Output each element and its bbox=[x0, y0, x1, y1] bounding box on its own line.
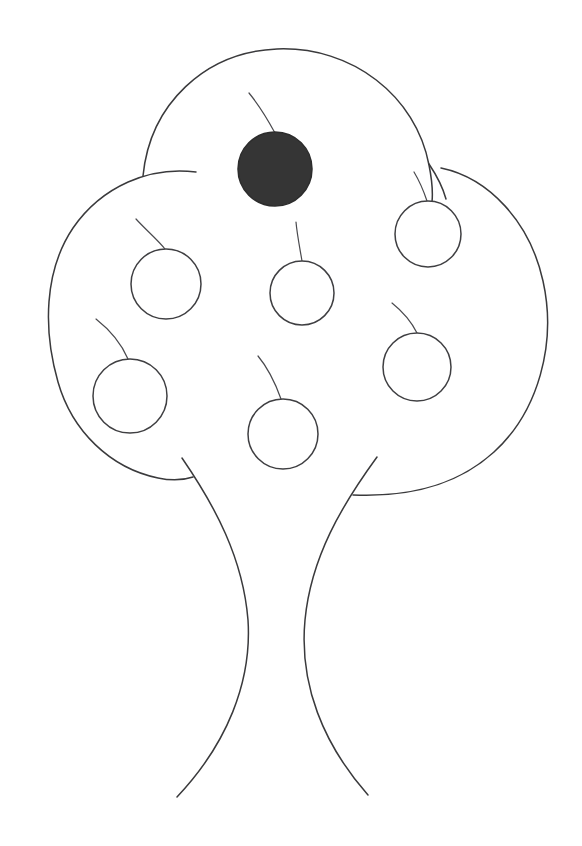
fruit-circle-lower-center[interactable] bbox=[248, 399, 318, 469]
fruit-circle-middle-center[interactable] bbox=[270, 261, 334, 325]
illustration-canvas bbox=[0, 0, 582, 846]
fruit-circle-filled-top-center[interactable] bbox=[238, 132, 312, 206]
fruit-circle-upper-right[interactable] bbox=[395, 201, 461, 267]
fruit-circle-upper-left[interactable] bbox=[131, 249, 201, 319]
tree-illustration bbox=[0, 0, 582, 846]
fruit-circle-lower-left[interactable] bbox=[93, 359, 167, 433]
fruit-circle-lower-right[interactable] bbox=[383, 333, 451, 401]
